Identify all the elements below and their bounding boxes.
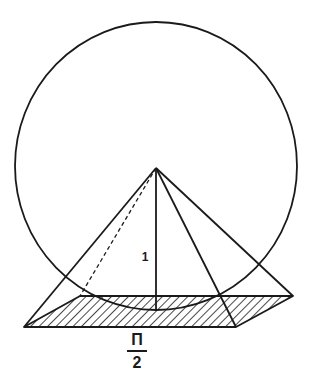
edge-back-right [156, 168, 293, 296]
base-label-numerator: Π [131, 331, 143, 348]
base-label-denominator: 2 [133, 354, 142, 371]
edge-back-left-hidden [80, 168, 156, 296]
pyramid-in-sphere-diagram: 1 Π 2 [0, 0, 312, 388]
height-label: 1 [142, 250, 149, 264]
pyramid-base [24, 296, 293, 327]
